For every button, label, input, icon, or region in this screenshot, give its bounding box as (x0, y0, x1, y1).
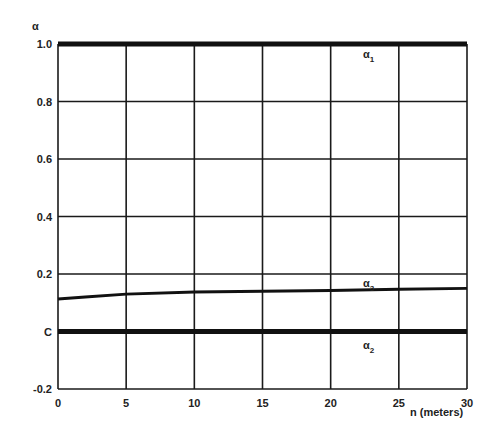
y-tick-label: 0.8 (37, 96, 52, 108)
y-tick-label: 0.4 (37, 211, 53, 223)
x-tick-label: 20 (325, 397, 337, 409)
y-axis-label: α (32, 20, 39, 32)
y-tick-label: -0.2 (33, 383, 52, 395)
axis-ticks: 0510152025301.00.80.60.40.2C-0.2 (33, 38, 473, 409)
y-tick-label: 1.0 (37, 38, 52, 50)
x-tick-label: 0 (55, 397, 61, 409)
series-labels: α1α3α2 (363, 48, 375, 355)
y-tick-label: 0.6 (37, 153, 52, 165)
grid (58, 44, 467, 389)
series-label-α2: α2 (363, 339, 375, 355)
x-tick-label: 25 (393, 397, 405, 409)
y-tick-label: 0.2 (37, 268, 52, 280)
x-tick-label: 5 (123, 397, 129, 409)
y-tick-label: C (44, 326, 52, 338)
x-tick-label: 15 (256, 397, 268, 409)
x-axis-label: n (meters) (410, 406, 464, 418)
x-tick-label: 10 (188, 397, 200, 409)
series-label-α1: α1 (363, 48, 375, 64)
chart: 0510152025301.00.80.60.40.2C-0.2 α1α3α2 … (0, 0, 495, 442)
